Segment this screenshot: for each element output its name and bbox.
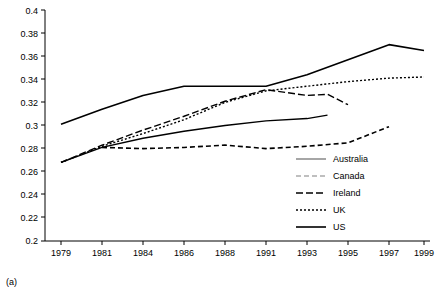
x-tick-label: 1988 [215, 248, 235, 258]
y-tick-label: 0.22 [20, 213, 38, 223]
y-tick-label: 0.24 [20, 190, 38, 200]
series-layer [61, 45, 424, 163]
y-axis-ticks [41, 10, 45, 241]
y-tick-label: 0.4 [25, 6, 38, 16]
series-line-australia [61, 115, 328, 162]
legend-item-ireland[interactable]: Ireland [296, 188, 361, 198]
legend-label-uk: UK [333, 205, 346, 215]
legend-item-australia[interactable]: Australia [296, 154, 368, 164]
legend-label-ireland: Ireland [333, 188, 361, 198]
x-axis-ticks [61, 241, 424, 245]
panel-label: (a) [6, 277, 17, 287]
legend-label-australia: Australia [333, 154, 368, 164]
legend-label-canada: Canada [333, 171, 365, 181]
series-line-uk [61, 77, 424, 162]
y-axis-tick-labels: 0.4 0.38 0.36 0.34 0.32 0.3 0.28 0.26 0.… [20, 6, 38, 246]
y-tick-label: 0.3 [25, 121, 38, 131]
x-tick-label: 1979 [51, 248, 71, 258]
chart-container: 0.4 0.38 0.36 0.34 0.32 0.3 0.28 0.26 0.… [0, 0, 440, 294]
series-line-us [61, 45, 424, 125]
legend-item-canada[interactable]: Canada [296, 171, 365, 181]
line-chart: 0.4 0.38 0.36 0.34 0.32 0.3 0.28 0.26 0.… [0, 0, 440, 294]
x-tick-label: 1999 [414, 248, 434, 258]
series-line-ireland [61, 90, 348, 163]
x-tick-label: 1997 [379, 248, 399, 258]
x-tick-label: 1981 [92, 248, 112, 258]
y-tick-label: 0.36 [20, 52, 38, 62]
x-tick-label: 1984 [133, 248, 153, 258]
y-tick-label: 0.26 [20, 167, 38, 177]
y-tick-label: 0.28 [20, 144, 38, 154]
x-tick-label: 1993 [297, 248, 317, 258]
x-tick-label: 1986 [174, 248, 194, 258]
y-tick-label: 0.34 [20, 75, 38, 85]
legend-item-uk[interactable]: UK [296, 205, 346, 215]
x-tick-label: 1995 [338, 248, 358, 258]
y-tick-label: 0.32 [20, 98, 38, 108]
x-tick-label: 1991 [256, 248, 276, 258]
x-axis-tick-labels: 1979 1981 1984 1986 1988 1991 1993 1995 … [51, 248, 434, 258]
legend: Australia Canada Ireland UK US [296, 154, 368, 232]
legend-label-us: US [333, 222, 346, 232]
y-tick-label: 0.38 [20, 29, 38, 39]
y-tick-label: 0.2 [25, 236, 38, 246]
legend-item-us[interactable]: US [296, 222, 346, 232]
